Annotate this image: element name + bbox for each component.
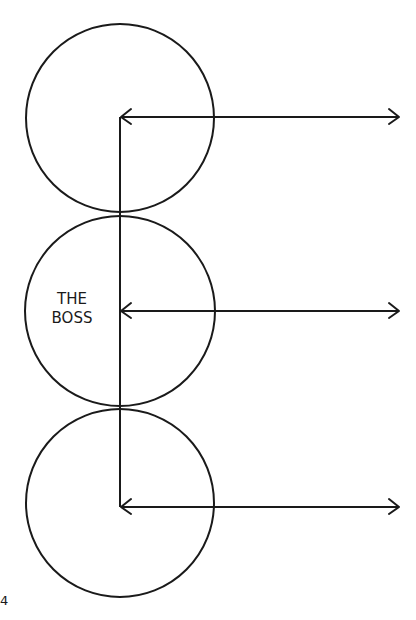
boss-label-line1: THE	[32, 290, 112, 309]
boss-label: THE BOSS	[32, 290, 112, 328]
page-number: 4	[0, 593, 8, 608]
boss-label-line2: BOSS	[32, 309, 112, 328]
